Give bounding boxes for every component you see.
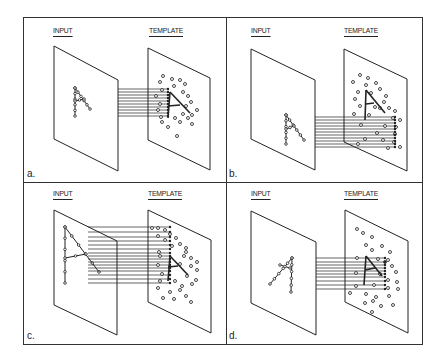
input-letter-bead bbox=[78, 99, 81, 102]
connection-endpoint bbox=[167, 94, 169, 96]
panel-a bbox=[54, 46, 210, 171]
figure: INPUT TEMPLATE a. INPUT TEMPLATE b. INPU… bbox=[0, 0, 441, 362]
template-dot bbox=[349, 292, 352, 295]
template-dot bbox=[379, 88, 382, 91]
input-letter-bead bbox=[77, 91, 80, 94]
input-letter-bead bbox=[86, 104, 89, 107]
connection-endpoint bbox=[394, 140, 396, 142]
input-letter-bead bbox=[71, 235, 74, 238]
connection-endpoint bbox=[169, 278, 171, 280]
input-letter-bead bbox=[285, 114, 288, 117]
connection-endpoint bbox=[384, 257, 386, 259]
input-letter-bead bbox=[64, 226, 67, 229]
panel-c bbox=[54, 210, 211, 335]
panel-d bbox=[251, 210, 408, 335]
connection-endpoint bbox=[384, 280, 386, 282]
template-dot bbox=[190, 265, 193, 268]
connection-endpoint bbox=[169, 231, 171, 233]
template-dot bbox=[179, 121, 182, 124]
template-dot bbox=[364, 138, 367, 141]
template-dot bbox=[179, 289, 182, 292]
template-dot bbox=[191, 114, 194, 117]
connection-endpoint bbox=[394, 134, 396, 136]
input-letter-bead bbox=[85, 253, 88, 256]
template-dot bbox=[388, 107, 391, 110]
input-letter-bead bbox=[74, 255, 77, 258]
template-dot bbox=[392, 304, 395, 307]
connection-endpoint bbox=[167, 91, 169, 93]
template-dot bbox=[159, 255, 162, 258]
connection-endpoint bbox=[394, 119, 396, 121]
connection-endpoint bbox=[384, 261, 386, 263]
input-letter-bead bbox=[273, 278, 276, 281]
template-dot bbox=[158, 251, 161, 254]
input-letter-bead bbox=[286, 262, 289, 265]
input-letter-bead bbox=[278, 272, 281, 275]
template-dot bbox=[157, 264, 160, 267]
template-dot bbox=[371, 236, 374, 239]
template-dot bbox=[360, 124, 363, 127]
template-dot bbox=[395, 271, 398, 274]
template-dot bbox=[173, 85, 176, 88]
template-dot bbox=[159, 103, 162, 106]
connection-endpoint bbox=[394, 125, 396, 127]
template-dot bbox=[174, 280, 177, 283]
template-dot bbox=[196, 269, 199, 272]
template-dot bbox=[384, 125, 387, 128]
panel-b-input-plane bbox=[251, 49, 315, 170]
template-dot bbox=[372, 300, 375, 303]
template-dot bbox=[167, 126, 170, 129]
template-dot bbox=[159, 81, 162, 84]
template-dot bbox=[355, 285, 358, 288]
template-dot bbox=[365, 244, 368, 247]
template-matching-drawing bbox=[0, 0, 441, 362]
connection-endpoint bbox=[384, 276, 386, 278]
connection-endpoint bbox=[394, 137, 396, 139]
template-dot bbox=[381, 245, 384, 248]
template-letter-stroke bbox=[168, 266, 178, 267]
input-letter-bead bbox=[83, 98, 86, 101]
template-dot bbox=[187, 117, 190, 120]
template-dot bbox=[190, 257, 193, 260]
template-dot bbox=[377, 258, 380, 261]
connection-endpoint bbox=[167, 88, 169, 90]
input-letter-bead bbox=[289, 126, 292, 129]
input-letter-bead bbox=[64, 271, 67, 274]
template-dot bbox=[161, 89, 164, 92]
template-dot bbox=[371, 311, 374, 314]
input-letter-bead bbox=[74, 104, 77, 107]
template-dot bbox=[355, 272, 358, 275]
template-dot bbox=[375, 296, 378, 299]
template-dot bbox=[368, 114, 371, 117]
template-dot bbox=[182, 91, 185, 94]
panel-b-template-plane bbox=[344, 49, 407, 171]
input-letter-bead bbox=[285, 137, 288, 140]
template-dot bbox=[196, 109, 199, 112]
input-letter-bead bbox=[74, 100, 77, 103]
panel-c-input-plane bbox=[54, 210, 117, 335]
template-dot bbox=[356, 228, 359, 231]
connection-endpoint bbox=[384, 267, 386, 269]
connection-endpoint bbox=[394, 128, 396, 130]
template-dot bbox=[164, 239, 167, 242]
input-letter-bead bbox=[288, 119, 291, 122]
template-dot bbox=[380, 305, 383, 308]
input-letter-bead bbox=[74, 115, 77, 118]
input-letter-bead bbox=[89, 108, 92, 111]
template-dot bbox=[376, 132, 379, 135]
input-letter-bead bbox=[290, 284, 293, 287]
template-dot bbox=[187, 95, 190, 98]
connection-endpoint bbox=[169, 252, 171, 254]
panel-a-input-plane bbox=[54, 46, 118, 171]
connection-endpoint bbox=[384, 264, 386, 266]
connection-endpoint bbox=[384, 284, 386, 286]
connection-endpoint bbox=[394, 116, 396, 118]
template-dot bbox=[190, 301, 193, 304]
template-dot bbox=[196, 261, 199, 264]
template-dot bbox=[182, 113, 185, 116]
input-letter-bead bbox=[284, 265, 287, 268]
connection-endpoint bbox=[169, 244, 171, 246]
template-dot bbox=[161, 121, 164, 124]
template-dot bbox=[396, 281, 399, 284]
template-dot bbox=[157, 109, 160, 112]
